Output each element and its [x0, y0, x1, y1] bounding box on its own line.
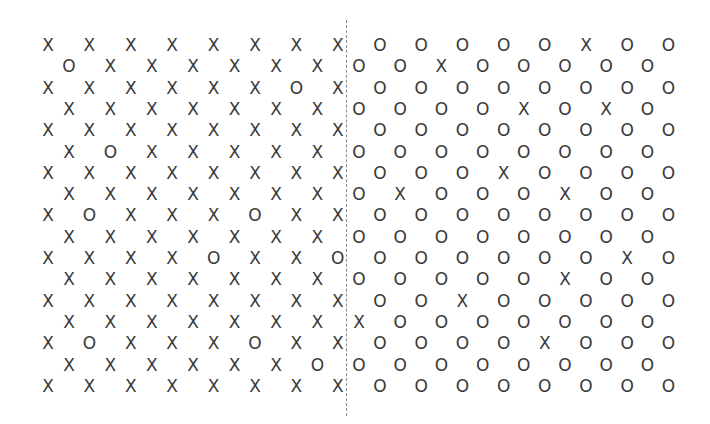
o-symbol: O: [533, 78, 557, 98]
o-symbol: O: [368, 163, 392, 183]
x-symbol: X: [36, 333, 60, 353]
x-symbol: X: [77, 163, 101, 183]
x-symbol: X: [140, 184, 164, 204]
o-symbol: O: [388, 312, 412, 332]
x-symbol: X: [181, 312, 205, 332]
o-symbol: O: [492, 35, 516, 55]
o-symbol: O: [656, 35, 680, 55]
o-symbol: O: [388, 56, 412, 76]
o-symbol: O: [305, 355, 329, 375]
x-symbol: X: [326, 376, 350, 396]
x-symbol: X: [202, 205, 226, 225]
o-symbol: O: [388, 99, 412, 119]
x-symbol: X: [160, 248, 184, 268]
o-symbol: O: [388, 227, 412, 247]
o-symbol: O: [77, 205, 101, 225]
o-symbol: O: [243, 205, 267, 225]
o-symbol: O: [574, 78, 598, 98]
x-symbol: X: [57, 227, 81, 247]
o-symbol: O: [471, 184, 495, 204]
x-symbol: X: [264, 269, 288, 289]
x-symbol: X: [326, 291, 350, 311]
x-symbol: X: [223, 312, 247, 332]
x-symbol: X: [160, 376, 184, 396]
x-symbol: X: [450, 291, 474, 311]
x-symbol: X: [57, 99, 81, 119]
x-symbol: X: [284, 248, 308, 268]
o-symbol: O: [429, 312, 453, 332]
o-symbol: O: [615, 35, 639, 55]
x-symbol: X: [98, 227, 122, 247]
x-symbol: X: [160, 205, 184, 225]
o-symbol: O: [492, 78, 516, 98]
o-symbol: O: [594, 56, 618, 76]
x-symbol: X: [223, 99, 247, 119]
x-symbol: X: [326, 78, 350, 98]
o-symbol: O: [615, 333, 639, 353]
o-symbol: O: [77, 333, 101, 353]
x-symbol: X: [202, 35, 226, 55]
x-symbol: X: [181, 184, 205, 204]
o-symbol: O: [615, 205, 639, 225]
o-symbol: O: [429, 269, 453, 289]
o-symbol: O: [594, 312, 618, 332]
x-symbol: X: [223, 142, 247, 162]
o-symbol: O: [409, 376, 433, 396]
x-symbol: X: [77, 376, 101, 396]
x-symbol: X: [243, 291, 267, 311]
o-symbol: O: [594, 355, 618, 375]
o-symbol: O: [326, 248, 350, 268]
o-symbol: O: [594, 269, 618, 289]
o-symbol: O: [471, 269, 495, 289]
x-symbol: X: [284, 376, 308, 396]
x-symbol: X: [223, 56, 247, 76]
o-symbol: O: [635, 355, 659, 375]
x-symbol: X: [181, 227, 205, 247]
o-symbol: O: [347, 227, 371, 247]
o-symbol: O: [492, 333, 516, 353]
x-symbol: X: [98, 99, 122, 119]
x-symbol: X: [98, 355, 122, 375]
o-symbol: O: [471, 99, 495, 119]
x-symbol: X: [243, 248, 267, 268]
o-symbol: O: [533, 248, 557, 268]
x-symbol: X: [264, 56, 288, 76]
x-symbol: X: [243, 376, 267, 396]
o-symbol: O: [471, 312, 495, 332]
o-symbol: O: [409, 291, 433, 311]
x-symbol: X: [119, 35, 143, 55]
o-symbol: O: [512, 355, 536, 375]
x-symbol: X: [57, 355, 81, 375]
o-symbol: O: [429, 142, 453, 162]
x-symbol: X: [512, 99, 536, 119]
o-symbol: O: [594, 142, 618, 162]
o-symbol: O: [429, 227, 453, 247]
x-symbol: X: [284, 291, 308, 311]
o-symbol: O: [368, 120, 392, 140]
x-symbol: X: [594, 99, 618, 119]
x-symbol: X: [202, 291, 226, 311]
x-symbol: X: [305, 142, 329, 162]
o-symbol: O: [347, 355, 371, 375]
o-symbol: O: [615, 163, 639, 183]
o-symbol: O: [450, 376, 474, 396]
x-symbol: X: [305, 56, 329, 76]
o-symbol: O: [533, 205, 557, 225]
x-symbol: X: [160, 35, 184, 55]
o-symbol: O: [574, 376, 598, 396]
o-symbol: O: [492, 248, 516, 268]
o-symbol: O: [574, 248, 598, 268]
x-symbol: X: [264, 312, 288, 332]
o-symbol: O: [471, 227, 495, 247]
o-symbol: O: [368, 333, 392, 353]
o-symbol: O: [635, 184, 659, 204]
o-symbol: O: [388, 142, 412, 162]
x-symbol: X: [57, 184, 81, 204]
o-symbol: O: [615, 78, 639, 98]
x-symbol: X: [223, 355, 247, 375]
symbol-grid-diagram: XXXXXXXXOXXXXXXXXXXXXOXXXXXXXXXXXXXXXXXO…: [0, 0, 710, 424]
x-symbol: X: [140, 355, 164, 375]
x-symbol: X: [305, 227, 329, 247]
o-symbol: O: [574, 333, 598, 353]
o-symbol: O: [574, 205, 598, 225]
